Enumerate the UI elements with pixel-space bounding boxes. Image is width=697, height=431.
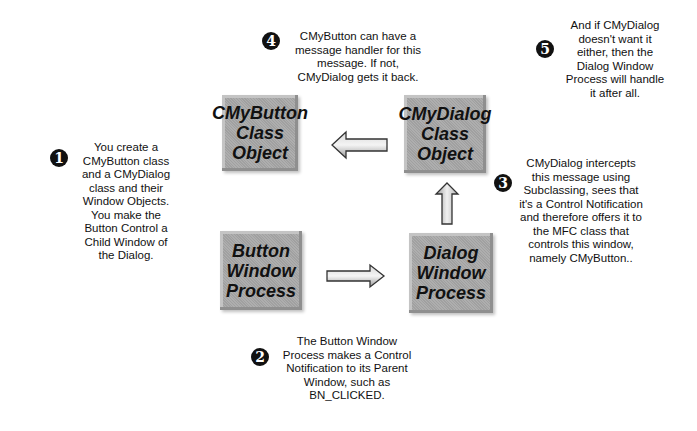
up-arrow-icon	[435, 182, 459, 226]
step-1-badge: 1	[50, 149, 68, 167]
right-arrow-icon	[326, 264, 386, 288]
dialog-window-process-label: Dialog Window Process	[416, 243, 486, 303]
left-arrow-icon	[331, 131, 389, 159]
step-4-text: CMyButton can have a message handler for…	[283, 30, 433, 84]
button-window-process-box: Button Window Process	[220, 231, 302, 310]
step-2-badge: 2	[251, 348, 269, 366]
cmybutton-class-object-label: CMyButton Class Object	[212, 103, 308, 163]
button-window-process-label: Button Window Process	[226, 241, 296, 301]
cmydialog-class-object-box: CMyDialog Class Object	[404, 95, 486, 173]
cmybutton-class-object-box: CMyButton Class Object	[222, 95, 298, 171]
step-2-text: The Button Window Process makes a Contro…	[272, 335, 422, 403]
cmydialog-class-object-label: CMyDialog Class Object	[399, 104, 492, 164]
step-5-text: And if CMyDialog doesn't want it either,…	[555, 19, 675, 100]
step-4-badge: 4	[262, 32, 280, 50]
step-3-text: CMyDialog intercepts this message using …	[506, 157, 656, 265]
step-5-badge: 5	[536, 40, 554, 58]
step-1-text: You create a CMyButton class and a CMyDi…	[74, 141, 178, 263]
dialog-window-process-box: Dialog Window Process	[409, 233, 493, 313]
